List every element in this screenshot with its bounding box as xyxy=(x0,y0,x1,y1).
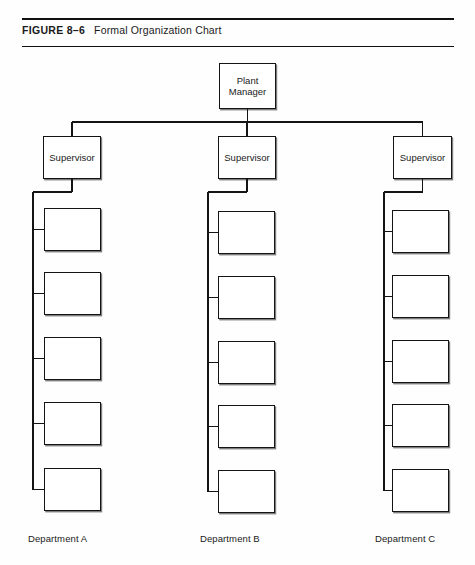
dept-a-unit-5[interactable] xyxy=(44,468,101,511)
dept-a-unit-2[interactable] xyxy=(44,272,101,315)
dept-b-unit-1[interactable] xyxy=(218,211,275,254)
dept-c-unit-3[interactable] xyxy=(392,340,449,383)
dept-b-unit-2[interactable] xyxy=(218,276,275,319)
department-a-caption: Department A xyxy=(28,533,87,544)
dept-c-unit-1[interactable] xyxy=(392,210,449,253)
supervisor-c-label: Supervisor xyxy=(400,152,445,163)
dept-b-unit-5[interactable] xyxy=(218,470,275,513)
supervisor-b-label: Supervisor xyxy=(224,152,269,163)
supervisor-a-label: Supervisor xyxy=(49,152,94,163)
supervisor-c[interactable]: Supervisor xyxy=(393,136,452,179)
dept-a-unit-1[interactable] xyxy=(44,208,101,251)
department-b-caption: Department B xyxy=(200,533,260,544)
dept-a-unit-4[interactable] xyxy=(44,402,101,445)
department-c-caption: Department C xyxy=(375,533,435,544)
dept-a-unit-3[interactable] xyxy=(44,337,101,380)
dept-b-unit-3[interactable] xyxy=(218,341,275,384)
figure-page: FIGURE 8–6Formal Organization Chart Plan… xyxy=(0,0,475,565)
dept-b-unit-4[interactable] xyxy=(218,405,275,448)
dept-c-unit-4[interactable] xyxy=(392,404,449,447)
plant-manager-label: Plant Manager xyxy=(229,75,267,97)
supervisor-b[interactable]: Supervisor xyxy=(218,136,276,179)
dept-c-unit-5[interactable] xyxy=(392,469,449,512)
plant-manager[interactable]: Plant Manager xyxy=(219,63,276,109)
dept-c-unit-2[interactable] xyxy=(392,275,449,318)
supervisor-a[interactable]: Supervisor xyxy=(43,136,101,179)
